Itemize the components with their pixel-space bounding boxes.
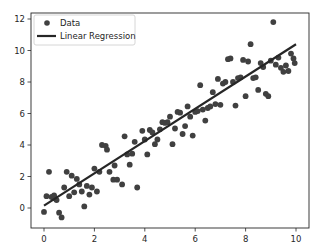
data-point	[44, 193, 50, 199]
data-point	[170, 141, 176, 147]
data-point	[255, 87, 261, 93]
data-point	[79, 189, 85, 195]
data-point	[197, 82, 203, 88]
data-point	[107, 169, 113, 175]
data-point	[248, 41, 254, 47]
data-point	[89, 185, 95, 191]
y-tick-label: 8	[20, 77, 25, 87]
data-point	[81, 204, 87, 210]
data-point	[114, 177, 120, 183]
data-point	[155, 137, 161, 143]
data-point	[71, 189, 77, 195]
data-point	[281, 69, 287, 75]
data-point	[92, 166, 98, 172]
data-point	[185, 104, 191, 110]
data-point	[87, 192, 93, 198]
y-tick-label: 12	[14, 14, 25, 24]
x-tick-label: 2	[92, 234, 97, 244]
data-point	[132, 139, 138, 145]
data-point	[292, 60, 298, 66]
data-point	[134, 185, 140, 191]
legend-label-regression: Linear Regression	[60, 31, 136, 41]
data-point	[187, 114, 193, 120]
scatter-regression-chart: 0246810 024681012 Data Linear Regression	[0, 0, 322, 251]
data-point	[112, 163, 118, 169]
x-tick-label: 0	[41, 234, 46, 244]
y-tick-label: 4	[20, 140, 25, 150]
data-point	[139, 128, 145, 134]
x-tick-label: 10	[291, 234, 302, 244]
data-point	[69, 173, 75, 179]
data-point	[270, 19, 276, 25]
data-point	[210, 89, 216, 95]
data-point	[182, 123, 188, 129]
data-point	[240, 57, 246, 63]
data-point	[122, 133, 128, 139]
data-point	[265, 93, 271, 99]
data-point	[41, 209, 47, 215]
data-point	[207, 104, 213, 110]
x-tick-label: 8	[243, 234, 248, 244]
data-point	[84, 183, 90, 189]
data-point	[127, 162, 133, 168]
x-tick-label: 4	[142, 234, 147, 244]
legend-data-marker-icon	[44, 20, 50, 26]
data-point	[213, 101, 219, 107]
legend: Data Linear Regression	[34, 15, 136, 45]
data-point	[223, 79, 229, 85]
data-point	[59, 215, 65, 221]
data-point	[283, 63, 289, 69]
data-point	[243, 93, 249, 99]
data-point	[202, 118, 208, 124]
data-point	[273, 62, 279, 68]
y-tick-label: 0	[20, 203, 25, 213]
data-point	[94, 189, 100, 195]
data-point	[286, 68, 292, 74]
legend-label-data: Data	[60, 18, 80, 28]
data-point	[253, 74, 259, 80]
data-point	[74, 176, 80, 182]
data-point	[104, 147, 110, 153]
data-point	[172, 126, 178, 132]
data-point	[119, 182, 125, 188]
data-point	[215, 76, 221, 82]
data-point	[180, 131, 186, 137]
y-tick-label: 2	[20, 172, 25, 182]
data-point	[190, 133, 196, 139]
data-point	[66, 193, 72, 199]
data-point	[167, 114, 173, 120]
x-tick-label: 6	[192, 234, 197, 244]
data-point	[61, 185, 67, 191]
data-point	[200, 107, 206, 113]
data-point	[144, 152, 150, 158]
y-tick-label: 10	[14, 46, 25, 56]
y-tick-label: 6	[20, 109, 25, 119]
data-point	[218, 102, 224, 108]
data-point	[46, 169, 52, 175]
data-point	[177, 110, 183, 116]
data-point	[245, 59, 251, 65]
data-point	[64, 169, 70, 175]
data-point	[228, 56, 234, 62]
data-point	[233, 103, 239, 109]
